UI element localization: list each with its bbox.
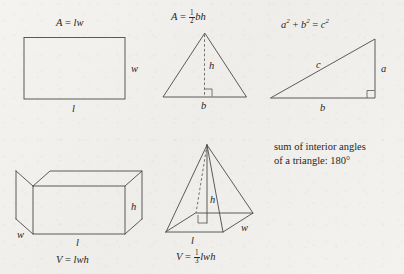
box-formula-w: w <box>77 254 84 265</box>
rectangle-drawing <box>0 0 140 120</box>
interior-angles-note-line-1: sum of interior angles <box>274 140 366 154</box>
triangle-label-height: h <box>209 61 214 72</box>
figure-rectangular-pyramid: h w l V = 13lwh <box>150 138 270 274</box>
figure-rectangular-prism: h w l V = lwh <box>0 150 150 274</box>
figure-rectangle: A = lw w l <box>0 0 140 120</box>
interior-angles-note-line-2: of a triangle: 180° <box>274 154 366 168</box>
pyramid-label-width: w <box>241 223 248 234</box>
rectangle-label-length: l <box>72 104 75 115</box>
pyramid-formula-fraction: 13 <box>194 250 200 266</box>
pyramid-fraction-numerator: 1 <box>194 250 200 257</box>
box-label-width: w <box>17 230 24 241</box>
right-triangle-label-hypotenuse: c <box>316 60 321 71</box>
pyramid-fraction-denominator: 3 <box>194 257 200 265</box>
rectangle-label-width: w <box>131 64 138 75</box>
box-volume-formula: V = lwh <box>56 255 89 266</box>
right-triangle-label-a: a <box>381 64 386 75</box>
right-triangle-drawing <box>262 0 404 120</box>
pyramid-formula-lhs: V <box>176 251 182 262</box>
box-formula-eq: = <box>65 254 71 265</box>
interior-angles-note: sum of interior angles of a triangle: 18… <box>274 140 366 167</box>
pyramid-formula-h: h <box>210 251 215 262</box>
rectangular-prism-drawing <box>0 150 150 260</box>
figure-triangle: A = 12bh h b <box>150 0 260 120</box>
box-label-length: l <box>76 238 79 249</box>
box-formula-lhs: V <box>56 254 62 265</box>
right-triangle-label-b: b <box>320 103 325 114</box>
rectangular-pyramid-drawing <box>150 138 270 244</box>
pyramid-formula-eq: = <box>185 251 191 262</box>
pyramid-volume-formula: V = 13lwh <box>176 250 215 266</box>
box-label-height: h <box>131 202 136 213</box>
triangle-label-base: b <box>201 101 206 112</box>
pyramid-label-height: h <box>210 195 215 206</box>
figure-right-triangle: a2 + b2 = c2 c a b <box>262 0 404 120</box>
pyramid-label-length: l <box>191 236 194 247</box>
box-formula-h: h <box>84 254 89 265</box>
